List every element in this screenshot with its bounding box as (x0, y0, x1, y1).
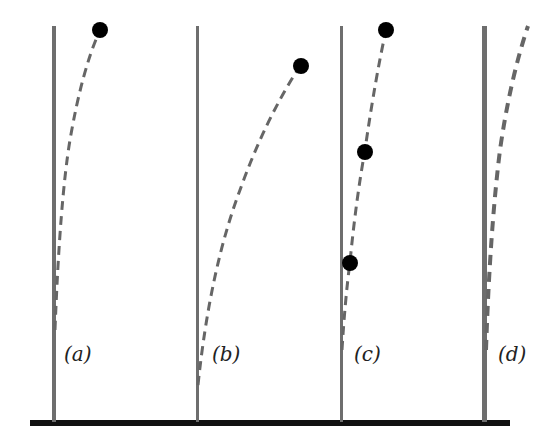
panel-label-b: (b) (212, 342, 240, 366)
pole-d (482, 26, 487, 422)
panel-label-d: (d) (498, 342, 526, 366)
deflection-curve-a (55, 30, 100, 330)
mass-c-middle (357, 144, 373, 160)
panel-label-c: (c) (354, 342, 381, 366)
panel-label-a: (a) (64, 342, 92, 366)
deflection-curve-c (342, 30, 386, 350)
mass-b (293, 58, 309, 74)
pole-b (196, 26, 199, 422)
mass-a (92, 22, 108, 38)
deflection-curve-d (486, 26, 528, 350)
deflection-curve-b (198, 66, 300, 385)
ground-line (30, 420, 510, 426)
beam-deflection-diagram (0, 0, 560, 445)
pole-a (52, 26, 56, 422)
pole-c (340, 26, 343, 422)
mass-c-bottom (342, 255, 358, 271)
mass-c-top (378, 22, 394, 38)
